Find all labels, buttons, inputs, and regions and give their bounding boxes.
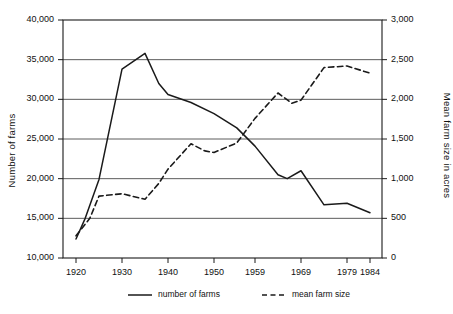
data-series <box>76 53 370 239</box>
series-line-mean-farm-size <box>76 66 370 236</box>
series-line-number-of-farms <box>76 53 370 239</box>
legend-item-label: number of farms <box>158 289 220 299</box>
legend-item-label: mean farm size <box>292 289 350 299</box>
